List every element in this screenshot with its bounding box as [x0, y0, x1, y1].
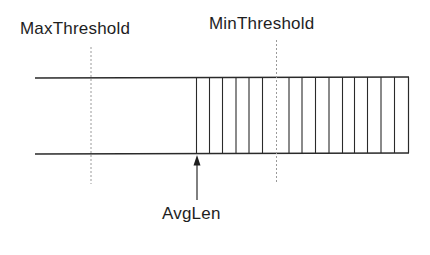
avg-len-arrow-head-icon [194, 155, 201, 166]
queue-top-edge [35, 77, 409, 78]
avg-len-label: AvgLen [162, 205, 221, 222]
queued-packets [197, 77, 395, 154]
red-queue-diagram: MaxThreshold MinThreshold AvgLen [0, 0, 430, 255]
max-threshold-label: MaxThreshold [20, 20, 130, 37]
min-threshold-label: MinThreshold [209, 15, 314, 32]
